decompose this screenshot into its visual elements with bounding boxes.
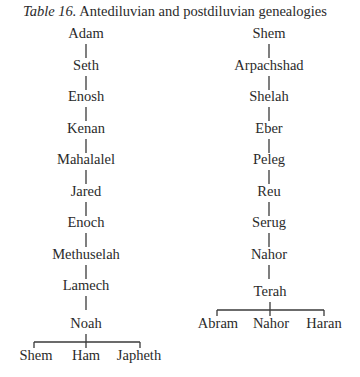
person-peleg: Peleg [253,150,285,168]
person-haran: Haran [306,314,341,332]
person-nahor: Nahor [251,245,287,263]
person-mahalalel: Mahalalel [57,150,115,168]
person-shelah: Shelah [249,87,288,105]
person-serug: Serug [252,213,286,231]
person-japheth: Japheth [117,346,161,364]
person-eber: Eber [255,119,282,137]
person-terah: Terah [254,282,287,300]
person-enoch: Enoch [67,213,104,231]
person-nahor-son-of-terah: Nahor [253,314,289,332]
person-adam: Adam [68,24,103,42]
person-arpachshad: Arpachshad [234,56,303,74]
right-connectors [217,44,324,316]
person-shem: Shem [252,24,285,42]
person-jared: Jared [71,182,102,200]
person-kenan: Kenan [67,119,105,137]
person-seth: Seth [73,56,99,74]
person-noah: Noah [70,314,101,332]
person-lamech: Lamech [63,276,110,294]
person-enosh: Enosh [68,87,104,105]
person-methuselah: Methuselah [52,245,120,263]
person-reu: Reu [257,182,280,200]
person-ham: Ham [72,346,100,364]
person-shem-son-of-noah: Shem [19,346,52,364]
person-abram: Abram [198,314,238,332]
